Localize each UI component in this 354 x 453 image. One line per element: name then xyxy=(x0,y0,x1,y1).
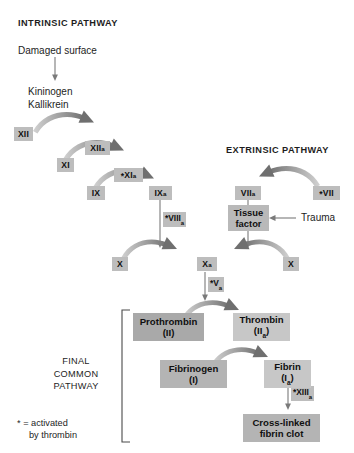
arrow-xii-to-xiia xyxy=(33,111,94,134)
footnote-line-1: * = activated xyxy=(17,417,68,429)
arrow-trauma-to-tissue-factor xyxy=(269,215,296,221)
factor-xiia-subscript: a xyxy=(101,146,104,152)
factor-xi-label: XI xyxy=(61,161,70,170)
cross-linked-fibrin-clot-box: Cross-linked fibrin clot xyxy=(243,414,320,442)
factor-chip-ixa: IXa xyxy=(149,186,172,200)
fibrin-number: (Ia) xyxy=(281,372,294,387)
factor-ixa-subscript: a xyxy=(163,191,166,197)
factor-x-right-label: X xyxy=(288,260,294,269)
factor-chip-xi: XI xyxy=(57,158,74,172)
final-common-pathway-line-1: FINAL xyxy=(38,355,114,368)
final-common-pathway-line-2: COMMON xyxy=(38,368,114,381)
tissue-factor-line-1: Tissue xyxy=(234,207,264,218)
factor-xia-subscript: a xyxy=(133,173,136,179)
factor-chip-xia: *XIa xyxy=(114,168,143,182)
factor-chip-xa: Xa xyxy=(197,257,217,271)
cofactor-chip-va: *Va xyxy=(208,277,224,292)
prothrombin-number: (II) xyxy=(163,327,175,339)
clot-line-1: Cross-linked xyxy=(252,417,310,429)
factor-viia-subscript: a xyxy=(252,191,255,197)
intrinsic-pathway-heading: INTRINSIC PATHWAY xyxy=(18,18,118,28)
factor-chip-xiia: XIIa xyxy=(85,141,110,155)
trauma-label: Trauma xyxy=(301,212,335,223)
fibrinogen-box: Fibrinogen (I) xyxy=(160,360,227,388)
kallikrein-label: Kallikrein xyxy=(28,99,69,110)
final-common-pathway-label: FINAL COMMON PATHWAY xyxy=(38,355,114,393)
arrow-damaged-surface-to-kininogen xyxy=(52,57,58,81)
cofactor-chip-viiia: *VIIIa xyxy=(163,212,186,227)
factor-chip-vii: *VII xyxy=(313,186,340,200)
arrow-x-left-to-xa xyxy=(121,237,177,260)
factor-xia-label: XI xyxy=(124,171,133,180)
fibrin-number-post: ) xyxy=(291,372,294,383)
cofactor-xiiia-label: XIII xyxy=(296,387,309,397)
fibrinogen-number: (I) xyxy=(189,374,198,386)
factor-chip-ix: IX xyxy=(87,186,105,200)
footnote-line-2: by thrombin xyxy=(29,429,77,441)
prothrombin-box: Prothrombin (II) xyxy=(133,313,204,341)
thrombin-number-post: ) xyxy=(266,325,269,336)
factor-xii-label: XII xyxy=(18,130,29,139)
factor-xia-asterisk: * xyxy=(121,172,125,181)
cofactor-viiia-subscript: a xyxy=(181,220,184,226)
factor-xa-subscript: a xyxy=(208,262,211,268)
thrombin-name: Thrombin xyxy=(239,314,283,326)
kininogen-label: Kininogen xyxy=(28,86,72,97)
fibrin-number-subscript: a xyxy=(287,379,291,386)
factor-xiia-label: XII xyxy=(90,144,101,153)
fibrin-name: Fibrin xyxy=(274,361,301,373)
final-common-pathway-line-3: PATHWAY xyxy=(38,380,114,393)
final-common-pathway-bracket xyxy=(122,310,130,442)
tissue-factor-box: Tissue factor xyxy=(228,205,269,231)
damaged-surface-label: Damaged surface xyxy=(18,45,97,56)
thrombin-number-subscript: a xyxy=(262,332,266,339)
cofactor-chip-xiiia: *XIIIa xyxy=(291,386,314,401)
factor-chip-viia: VIIa xyxy=(235,186,261,200)
cofactor-va-subscript: a xyxy=(219,285,222,291)
factor-vii-label: VII xyxy=(323,189,334,198)
prothrombin-name: Prothrombin xyxy=(140,316,198,328)
arrow-vii-to-viia xyxy=(259,165,320,188)
cofactor-viiia-label: VIII xyxy=(168,213,181,223)
fibrinogen-name: Fibrinogen xyxy=(169,363,219,375)
arrow-x-right-to-xa xyxy=(234,237,290,260)
cofactor-xiiia-subscript: a xyxy=(309,394,312,400)
factor-vii-asterisk: * xyxy=(319,190,323,199)
factor-chip-x-left: X xyxy=(112,257,128,271)
thrombin-box: Thrombin (IIa) xyxy=(233,313,290,341)
clot-line-2: fibrin clot xyxy=(260,428,304,440)
fibrin-box: Fibrin (Ia) xyxy=(264,360,311,388)
factor-ix-label: IX xyxy=(92,189,101,198)
factor-x-left-label: X xyxy=(117,260,123,269)
thrombin-number: (IIa) xyxy=(254,325,269,340)
tissue-factor-line-2: factor xyxy=(235,218,261,229)
extrinsic-pathway-heading: EXTRINSIC PATHWAY xyxy=(226,145,329,155)
factor-viia-label: VII xyxy=(241,189,252,198)
coagulation-cascade-diagram: INTRINSIC PATHWAY EXTRINSIC PATHWAY Dama… xyxy=(0,0,354,453)
factor-chip-xii: XII xyxy=(14,127,33,141)
factor-chip-x-right: X xyxy=(283,257,299,271)
factor-ixa-label: IX xyxy=(155,189,164,198)
